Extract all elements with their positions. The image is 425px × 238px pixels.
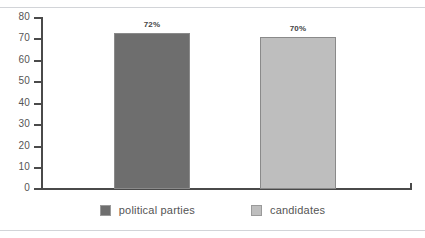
y-tick-label-30: 30: [4, 119, 30, 129]
legend-label-candidates: candidates: [270, 204, 325, 216]
y-tick-label-20: 20: [4, 141, 30, 151]
legend-item-political-parties[interactable]: political parties: [100, 204, 195, 216]
y-tick-label-60: 60: [4, 55, 30, 65]
x-axis-end-tick: [410, 183, 412, 190]
y-tick-10: [34, 167, 41, 169]
y-tick-20: [34, 146, 41, 148]
y-tick-label-10: 10: [4, 162, 30, 172]
y-tick-70: [34, 38, 41, 40]
y-tick-40: [34, 103, 41, 105]
legend-label-political-parties: political parties: [119, 204, 195, 216]
y-tick-50: [34, 81, 41, 83]
plot-area: 80 70 60 50 40 30 20 10 0 72% 70%: [0, 0, 425, 200]
y-axis-line: [41, 17, 43, 190]
bar-label-political-parties: 72%: [114, 20, 190, 29]
y-tick-label-40: 40: [4, 98, 30, 108]
legend-item-candidates[interactable]: candidates: [251, 204, 325, 216]
y-tick-0: [34, 188, 41, 190]
y-tick-60: [34, 60, 41, 62]
chart-legend: political parties candidates: [0, 204, 425, 216]
legend-swatch-icon-political-parties: [100, 205, 111, 216]
y-tick-30: [34, 124, 41, 126]
y-tick-label-50: 50: [4, 76, 30, 86]
chart-figure: 80 70 60 50 40 30 20 10 0 72% 70% politi…: [0, 0, 425, 238]
y-tick-label-0: 0: [4, 183, 30, 193]
bar-political-parties[interactable]: [114, 33, 190, 189]
bar-candidates[interactable]: [260, 37, 336, 189]
y-tick-label-70: 70: [4, 33, 30, 43]
bar-label-candidates: 70%: [260, 24, 336, 33]
legend-swatch-icon-candidates: [251, 205, 262, 216]
x-axis-line: [41, 188, 412, 190]
y-tick-80: [34, 17, 41, 19]
bottom-divider: [0, 230, 425, 231]
y-tick-label-80: 80: [4, 12, 30, 22]
